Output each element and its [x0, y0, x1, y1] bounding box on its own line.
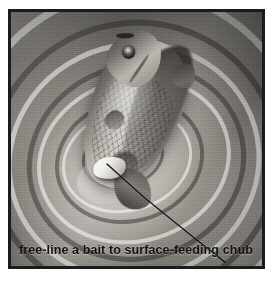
illustration-artwork: free-line a bait to surface-feeding chub	[11, 12, 262, 266]
illustration-figure: free-line a bait to surface-feeding chub	[0, 0, 275, 284]
figure-caption: free-line a bait to surface-feeding chub	[19, 244, 254, 257]
paper-grain	[11, 12, 262, 266]
illustration-plate-border: free-line a bait to surface-feeding chub	[8, 9, 265, 269]
